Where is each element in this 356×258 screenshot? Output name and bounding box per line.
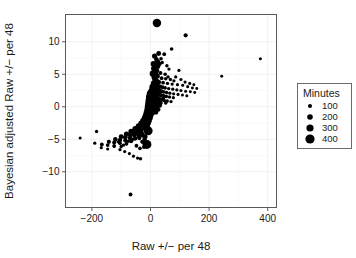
data-point [175, 88, 178, 91]
legend-dot-400 [305, 134, 314, 143]
data-point [171, 82, 174, 85]
data-point [179, 89, 182, 92]
data-point [135, 144, 139, 148]
legend-label-200: 200 [322, 111, 338, 122]
data-point [177, 69, 180, 72]
data-point [106, 147, 109, 150]
data-point [79, 136, 82, 139]
data-point [169, 78, 172, 81]
data-point [118, 148, 121, 151]
data-point [100, 143, 104, 147]
data-point [123, 150, 126, 153]
x-axis-title: Raw +/− per 48 [132, 240, 211, 252]
data-point [142, 137, 146, 141]
data-point [168, 95, 171, 98]
data-point [159, 57, 163, 61]
data-point [100, 146, 103, 149]
data-point [168, 91, 171, 94]
data-point [184, 33, 188, 37]
data-point [141, 133, 146, 138]
x-tick-label: −200 [81, 213, 104, 224]
data-point [138, 147, 142, 151]
data-point [164, 101, 168, 105]
data-point [142, 145, 146, 149]
data-point [150, 70, 156, 76]
data-point [128, 152, 131, 155]
data-point [106, 143, 110, 147]
data-point [176, 83, 179, 86]
legend: Minutes 100200300400 [298, 84, 352, 149]
data-point [163, 72, 167, 76]
data-point [186, 85, 189, 88]
data-point [153, 19, 161, 27]
data-point [144, 126, 153, 135]
data-point [126, 139, 129, 142]
data-point [136, 156, 139, 159]
plot-svg: −2000200400 −10−50510 Raw +/− per 48 Bay… [0, 0, 356, 258]
data-point [161, 81, 165, 85]
data-point [184, 81, 187, 84]
data-point [171, 88, 174, 91]
x-tick-label: 0 [148, 213, 154, 224]
data-point [195, 87, 198, 90]
plot-panel-border [66, 15, 277, 208]
y-tick-label: 0 [54, 101, 60, 112]
data-point [185, 94, 188, 97]
x-tick-label: 200 [201, 213, 218, 224]
data-point [170, 47, 174, 51]
data-point [112, 141, 116, 145]
legend-label-100: 100 [322, 100, 338, 111]
data-point [165, 64, 168, 67]
data-point [172, 79, 175, 82]
data-point [179, 78, 182, 81]
data-point [132, 155, 135, 158]
data-point [139, 157, 142, 160]
legend-dot-300 [306, 124, 313, 131]
y-tick-label: 5 [54, 69, 60, 80]
data-point [166, 75, 169, 78]
data-point [169, 100, 172, 103]
data-point [167, 67, 170, 70]
data-point [165, 91, 169, 95]
data-point [193, 91, 196, 94]
data-point [188, 82, 191, 85]
data-point [153, 109, 158, 114]
data-point [122, 143, 125, 146]
data-point [117, 140, 120, 143]
data-point [151, 66, 157, 72]
x-axis-ticks: −2000200400 [81, 208, 277, 224]
data-point [113, 145, 116, 148]
legend-label-300: 300 [322, 122, 338, 133]
data-point [259, 57, 262, 60]
legend-dot-100 [308, 104, 312, 108]
legend-dot-200 [307, 114, 313, 120]
data-point [137, 136, 141, 140]
data-point [160, 76, 164, 80]
data-point [163, 86, 167, 90]
data-point [95, 130, 98, 133]
legend-title: Minutes [303, 87, 340, 99]
data-point [93, 142, 96, 145]
data-point [158, 71, 162, 75]
data-point [189, 90, 192, 93]
data-points-layer [79, 19, 262, 197]
data-point [161, 96, 165, 100]
data-point [181, 84, 184, 87]
x-tick-label: 400 [259, 213, 276, 224]
data-point [220, 75, 223, 78]
data-point [160, 61, 163, 64]
y-tick-label: −5 [48, 134, 60, 145]
data-point [172, 96, 175, 99]
data-point [152, 53, 157, 58]
y-tick-label: 10 [48, 36, 60, 47]
gridlines [66, 15, 277, 208]
data-point [166, 82, 169, 85]
data-point [167, 87, 170, 90]
data-point [192, 83, 195, 86]
data-point [184, 90, 187, 93]
y-axis-title: Bayesian adjusted Raw +/− per 48 [3, 23, 15, 199]
data-point [131, 137, 135, 141]
data-point [129, 193, 133, 197]
y-axis-ticks: −10−50510 [43, 36, 66, 177]
data-point [176, 93, 179, 96]
